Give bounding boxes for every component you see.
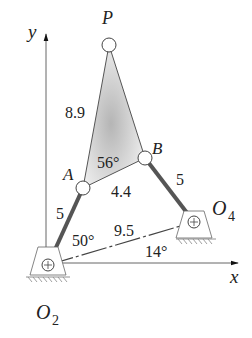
svg-text:2: 2 xyxy=(52,313,59,328)
joint-a xyxy=(76,181,90,195)
dim-o4b: 5 xyxy=(176,171,184,188)
x-axis-label: x xyxy=(229,266,239,287)
label-o2: O 2 xyxy=(36,301,59,328)
label-b: B xyxy=(152,139,163,158)
dim-ab: 4.4 xyxy=(111,183,131,200)
label-p: P xyxy=(101,8,113,28)
ground-support-o2 xyxy=(26,247,70,282)
ground-support-o4 xyxy=(176,211,216,244)
angle-crank: 50° xyxy=(72,232,94,249)
joint-p xyxy=(102,38,116,52)
angle-coupler: 56° xyxy=(97,154,119,171)
svg-text:4: 4 xyxy=(228,209,235,224)
linkage-diagram: y x xyxy=(0,0,252,338)
label-o4: O 4 xyxy=(212,197,235,224)
angle-ground: 14° xyxy=(145,243,167,260)
joint-b xyxy=(138,151,152,165)
dim-ap: 8.9 xyxy=(65,104,85,121)
y-axis-label: y xyxy=(26,21,37,42)
dim-o2a: 5 xyxy=(56,205,64,222)
svg-text:O: O xyxy=(212,197,226,219)
dim-o2o4: 9.5 xyxy=(114,222,134,239)
svg-text:O: O xyxy=(36,301,50,323)
label-a: A xyxy=(62,165,74,184)
